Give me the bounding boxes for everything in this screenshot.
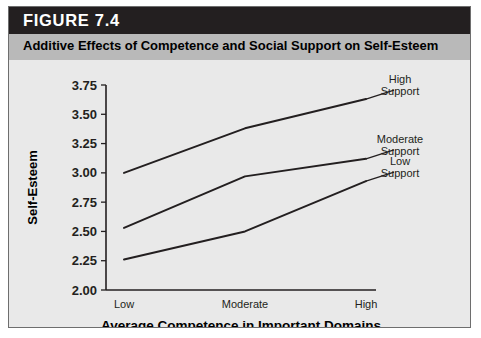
series-line — [124, 181, 366, 259]
series-legend: HighSupportModerateSupportLowSupport — [366, 73, 423, 181]
series-legend-label: Low — [390, 155, 410, 167]
x-tick-label: High — [355, 298, 378, 310]
y-tick-label: 3.00 — [72, 165, 97, 180]
series-legend-label: Support — [381, 85, 420, 97]
y-tick-label: 2.25 — [72, 253, 97, 268]
x-axis-title: Average Competence in Important Domains — [101, 318, 381, 327]
series-legend-label: Moderate — [377, 133, 423, 145]
figure-root: FIGURE 7.4 Additive Effects of Competenc… — [0, 0, 481, 338]
figure-container: FIGURE 7.4 Additive Effects of Competenc… — [8, 6, 471, 328]
y-axis: 2.002.252.502.753.003.253.503.75 — [72, 78, 106, 298]
x-tick-label: Low — [114, 298, 134, 310]
y-tick-label: 2.75 — [72, 195, 97, 210]
y-tick-label: 2.00 — [72, 283, 97, 298]
y-tick-label: 3.25 — [72, 136, 97, 151]
figure-caption-text: Additive Effects of Competence and Socia… — [23, 38, 438, 53]
y-tick-label: 2.50 — [72, 224, 97, 239]
figure-number-label: FIGURE 7.4 — [23, 11, 120, 30]
series-lines — [124, 99, 366, 259]
figure-number-banner: FIGURE 7.4 — [9, 7, 470, 34]
series-line — [124, 159, 366, 228]
x-axis: LowModerateHigh — [106, 290, 377, 310]
y-tick-label: 3.50 — [72, 107, 97, 122]
series-legend-label: Support — [381, 167, 420, 179]
x-tick-label: Moderate — [222, 298, 268, 310]
y-tick-label: 3.75 — [72, 78, 97, 93]
y-axis-title: Self-Esteem — [25, 150, 40, 224]
figure-caption-bar: Additive Effects of Competence and Socia… — [9, 34, 470, 60]
chart-plot-area: 2.002.252.502.753.003.253.503.75 LowMode… — [9, 60, 470, 327]
series-legend-label: High — [389, 73, 412, 85]
series-line — [124, 99, 366, 173]
line-chart: 2.002.252.502.753.003.253.503.75 LowMode… — [9, 60, 470, 327]
